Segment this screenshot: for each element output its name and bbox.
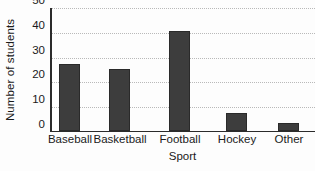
plot-area [50, 8, 315, 132]
bar-basketball[interactable] [109, 69, 130, 131]
y-axis-tick-labels: 50 40 30 20 10 0 [20, 0, 48, 140]
y-tick-label-30: 30 [32, 44, 45, 56]
x-tick-label-basketball: Basketball [93, 133, 146, 145]
x-axis-line [50, 131, 315, 133]
x-axis-tick-labels: Baseball Basketball Football Hockey Othe… [50, 133, 315, 150]
gridline-50 [51, 8, 315, 10]
x-tick-label-baseball: Baseball [48, 133, 92, 145]
bar-hockey[interactable] [226, 113, 247, 130]
y-axis-line [50, 8, 52, 132]
y-tick-label-40: 40 [32, 19, 45, 31]
y-axis-title: Number of students [0, 0, 20, 140]
x-tick-label-hockey: Hockey [218, 133, 256, 145]
x-tick-label-football: Football [160, 133, 201, 145]
y-tick-label-50: 50 [32, 0, 45, 6]
y-tick-label-20: 20 [32, 68, 45, 80]
bar-baseball[interactable] [59, 64, 80, 131]
x-tick-label-other: Other [275, 133, 304, 145]
y-axis-title-text: Number of students [4, 19, 16, 121]
bar-other[interactable] [278, 123, 299, 130]
y-tick-label-0: 0 [39, 118, 45, 130]
bar-football[interactable] [169, 31, 190, 130]
y-tick-label-10: 10 [32, 93, 45, 105]
x-axis-title: Sport [50, 150, 315, 162]
bar-chart-figure: Number of students 50 40 30 20 10 0 Base… [0, 0, 315, 171]
